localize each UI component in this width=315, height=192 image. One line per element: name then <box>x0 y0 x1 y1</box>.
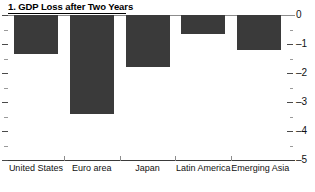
major-tick-right <box>287 73 293 74</box>
minor-tick-right <box>290 30 293 31</box>
x-tick-label: Japan <box>120 163 176 174</box>
x-tick-label: Euro area <box>64 163 120 174</box>
minor-tick-left <box>4 30 8 31</box>
category-separator-tick <box>175 156 176 161</box>
y-tick-label: –3 <box>296 97 307 107</box>
title-underline <box>8 13 126 14</box>
major-tick-right <box>287 44 293 45</box>
major-tick-left <box>2 131 8 132</box>
major-tick-left <box>2 102 8 103</box>
bottom-axis-line <box>8 160 295 161</box>
y-tick-label: –4 <box>296 126 307 136</box>
minor-tick-right <box>290 88 293 89</box>
y-tick-label: –5 <box>296 155 307 165</box>
category-separator-tick <box>120 156 121 161</box>
bar-united-states <box>14 15 58 54</box>
minor-tick-left <box>4 59 8 60</box>
major-tick-right <box>287 131 293 132</box>
x-tick-label: Emerging Asia <box>231 163 287 174</box>
minor-tick-left <box>4 88 8 89</box>
minor-tick-right <box>290 146 293 147</box>
major-tick-left <box>2 44 8 45</box>
major-tick-left <box>2 73 8 74</box>
minor-tick-left <box>4 146 8 147</box>
y-tick-label: –2 <box>296 68 307 78</box>
minor-tick-left <box>4 117 8 118</box>
plot-area <box>8 15 287 160</box>
bar-euro-area <box>70 15 114 114</box>
major-tick-right <box>287 102 293 103</box>
major-tick-left <box>2 15 8 16</box>
x-tick-label: Latin America <box>175 163 231 174</box>
gdp-loss-bar-chart: 1. GDP Loss after Two Years 0–1–2–3–4–5 … <box>0 0 315 192</box>
category-separator-tick <box>64 156 65 161</box>
y-tick-label: 0 <box>296 10 302 20</box>
bar-emerging-asia <box>237 15 281 50</box>
minor-tick-right <box>290 117 293 118</box>
chart-title: 1. GDP Loss after Two Years <box>8 1 133 13</box>
category-separator-tick <box>231 156 232 161</box>
bar-japan <box>126 15 170 67</box>
minor-tick-right <box>290 59 293 60</box>
y-tick-label: –1 <box>296 39 307 49</box>
bar-latin-america <box>181 15 225 34</box>
x-tick-label: United States <box>8 163 64 174</box>
